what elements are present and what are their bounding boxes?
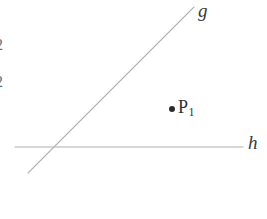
point-p1-label: P1 xyxy=(178,98,195,118)
edge-mark-digit-2-lower: 2 xyxy=(0,73,3,91)
edge-mark-digit-2-upper: 2 xyxy=(0,36,3,54)
figure-canvas xyxy=(0,0,267,219)
point-p1-label-subscript: 1 xyxy=(189,105,195,119)
line-g xyxy=(28,7,194,173)
geometry-figure: g h P1 2 2 · xyxy=(0,0,267,219)
point-p1-label-base: P xyxy=(178,97,188,117)
point-p1-dot xyxy=(169,106,175,112)
line-g-label: g xyxy=(198,1,208,20)
line-h-label: h xyxy=(248,133,258,152)
